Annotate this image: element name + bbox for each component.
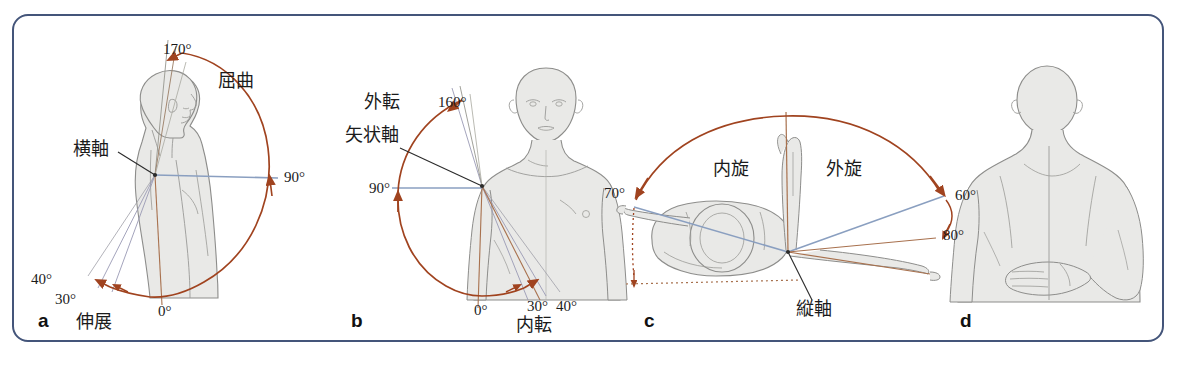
label-b-sagittal-axis: 矢状軸 — [345, 126, 399, 144]
panel-letter-d: d — [960, 310, 972, 332]
label-b-90deg: 90° — [369, 181, 390, 196]
figure-shoulder-range-of-motion: 170° 屈曲 横軸 90° 40° 30° 0° 伸展 a 外転 矢状軸 16… — [0, 0, 1180, 377]
label-c-80deg: 80° — [943, 228, 964, 243]
label-a-0deg: 0° — [158, 304, 172, 319]
label-a-30deg: 30° — [55, 292, 76, 307]
figure-border-frame — [12, 14, 1164, 342]
cropped-caption-ghost — [40, 366, 1040, 376]
label-b-0deg: 0° — [474, 303, 488, 318]
label-b-160deg: 160° — [438, 95, 467, 110]
label-a-flexion: 屈曲 — [218, 72, 254, 90]
label-c-60deg: 60° — [955, 188, 976, 203]
label-b-abduction: 外転 — [364, 93, 400, 111]
label-a-170deg: 170° — [163, 42, 192, 57]
label-a-40deg: 40° — [31, 272, 52, 287]
label-a-90deg: 90° — [284, 170, 305, 185]
panel-letter-b: b — [351, 310, 363, 332]
label-c-longitudinal-axis: 縦軸 — [796, 300, 832, 318]
label-a-extension: 伸展 — [76, 313, 112, 331]
label-b-30deg: 30° — [527, 299, 548, 314]
panel-letter-c: c — [644, 310, 655, 332]
label-c-70deg: 70° — [604, 186, 625, 201]
label-a-transverse-axis: 横軸 — [73, 140, 109, 158]
label-c-internal-rotation: 内旋 — [713, 160, 749, 178]
label-c-external-rotation: 外旋 — [826, 160, 862, 178]
panel-letter-a: a — [38, 310, 49, 332]
label-b-40deg: 40° — [556, 299, 577, 314]
label-b-adduction: 内転 — [516, 316, 552, 334]
